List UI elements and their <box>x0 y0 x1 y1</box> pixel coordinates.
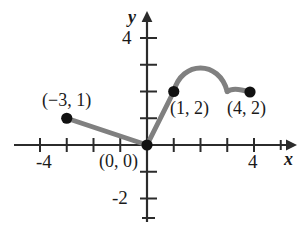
data-point-4-2 <box>244 86 255 97</box>
x-tick-label-neg4: -4 <box>36 152 52 171</box>
point-label-4-2: (4, 2) <box>227 99 266 117</box>
y-tick-label-neg2: -2 <box>112 188 128 207</box>
data-point-neg3-1 <box>61 113 72 124</box>
y-tick-label-4: 4 <box>122 28 132 47</box>
x-axis-label: x <box>284 150 293 168</box>
x-tick-label-4: 4 <box>248 152 258 171</box>
data-point-0-0 <box>141 139 152 150</box>
y-axis <box>142 11 153 222</box>
y-axis-label: y <box>128 8 136 26</box>
graph-figure: -4 4 4 -2 x y (−3, 1) (0, 0) (1, 2) (4, … <box>0 0 305 228</box>
point-label-1-2: (1, 2) <box>170 99 209 117</box>
curve-arc <box>174 68 228 92</box>
point-label-0-0: (0, 0) <box>99 152 138 170</box>
data-point-1-2 <box>168 86 179 97</box>
point-label-neg3-1: (−3, 1) <box>42 91 91 109</box>
curve-left-segment <box>67 118 147 145</box>
